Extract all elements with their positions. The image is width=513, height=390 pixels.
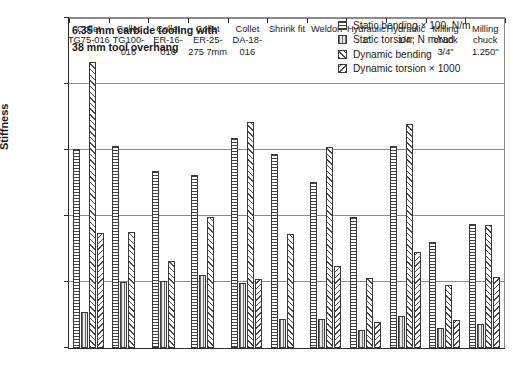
- x-tick-mark: [69, 18, 70, 23]
- x-category-label-line: DA-18-: [222, 35, 274, 46]
- bar: [445, 285, 452, 348]
- y-tick-mark: [64, 149, 69, 150]
- bar: [334, 266, 341, 348]
- bar: [374, 322, 381, 348]
- bar: [310, 182, 317, 348]
- bar: [191, 175, 198, 348]
- bar-group: [73, 18, 105, 348]
- bar: [318, 319, 325, 348]
- bar: [390, 146, 397, 348]
- legend-item: Static torsion, N m/rad: [338, 34, 471, 45]
- x-tick-mark: [228, 18, 229, 23]
- bar: [279, 319, 286, 348]
- bar: [112, 146, 119, 348]
- bar: [406, 124, 413, 348]
- legend-label: Dynamic bending: [353, 49, 432, 60]
- bar: [128, 232, 135, 348]
- bar: [287, 234, 294, 348]
- bar: [477, 324, 484, 348]
- legend-swatch-icon: [338, 64, 347, 73]
- bar-group: [231, 18, 263, 348]
- bar: [152, 171, 159, 348]
- bar: [255, 279, 262, 348]
- bar: [485, 225, 492, 348]
- bar-group: [152, 18, 176, 348]
- bar: [160, 281, 167, 348]
- legend-swatch-icon: [338, 35, 347, 44]
- plot-frame-right: [504, 18, 505, 348]
- legend-item: Dynamic bending: [338, 49, 471, 60]
- bar: [199, 275, 206, 348]
- bar: [247, 122, 254, 348]
- bar: [89, 62, 96, 348]
- y-tick-mark: [64, 347, 69, 348]
- bar: [326, 147, 333, 348]
- legend-item: Dynamic torsion × 1000: [338, 63, 471, 74]
- bar-group: [191, 18, 215, 348]
- x-tick-mark: [307, 18, 308, 23]
- bar: [437, 328, 444, 348]
- bar: [493, 277, 500, 348]
- bar: [97, 233, 104, 348]
- bar: [81, 312, 88, 348]
- x-tick-mark: [505, 18, 506, 23]
- bar-group: [469, 18, 501, 348]
- legend-label: Static torsion, N m/rad: [353, 34, 454, 45]
- y-axis-label: Stiffness: [0, 104, 10, 150]
- bar: [429, 242, 436, 348]
- bar: [366, 278, 373, 348]
- bar: [398, 316, 405, 348]
- legend-swatch-icon: [338, 50, 347, 59]
- x-category-label-line: 016: [222, 47, 274, 58]
- bar: [231, 138, 238, 348]
- chart-annotation: 6.35 mm carbide tooling with 38 mm tool …: [72, 22, 217, 55]
- bar: [168, 261, 175, 348]
- bar: [469, 224, 476, 348]
- legend-item: Static bending × 100, N/m: [338, 20, 471, 31]
- bar: [453, 320, 460, 348]
- bar-group: [112, 18, 136, 348]
- y-tick-mark: [64, 215, 69, 216]
- bar: [358, 330, 365, 348]
- bar: [271, 154, 278, 348]
- legend-label: Static bending × 100, N/m: [353, 20, 471, 31]
- bar: [73, 149, 80, 348]
- y-tick-mark: [64, 83, 69, 84]
- y-tick-mark: [64, 281, 69, 282]
- chart-legend: Static bending × 100, N/mStatic torsion,…: [338, 20, 471, 78]
- bar: [120, 282, 127, 348]
- bar-group: [271, 18, 295, 348]
- legend-label: Dynamic torsion × 1000: [353, 63, 460, 74]
- bar: [207, 217, 214, 348]
- bar: [239, 283, 246, 348]
- stiffness-bar-chart: 05,00010,00015,00020,00025,000 ColletTG7…: [0, 0, 513, 390]
- bar: [350, 217, 357, 348]
- bar: [414, 252, 421, 348]
- legend-swatch-icon: [338, 21, 347, 30]
- x-tick-mark: [267, 18, 268, 23]
